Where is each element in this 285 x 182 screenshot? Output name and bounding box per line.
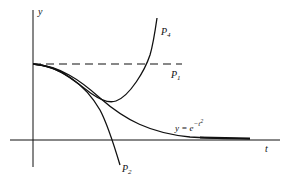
p4-curve	[33, 18, 157, 102]
y-axis-label: y	[37, 6, 43, 17]
p4-label: P4	[160, 26, 171, 39]
exp-label: y = e−t2	[174, 118, 203, 133]
p2-label: P2	[121, 163, 132, 176]
t-axis-label: t	[265, 143, 268, 154]
p1-label: P1	[170, 69, 181, 82]
taylor-polynomial-figure: y t P4 P1 P2 y = e−t2	[0, 0, 285, 182]
exp-curve-tail	[200, 138, 250, 139]
